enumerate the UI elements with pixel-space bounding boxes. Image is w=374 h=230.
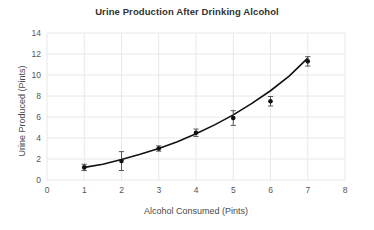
x-tick-label: 4 [181, 186, 211, 195]
plot-area [47, 33, 345, 180]
plot-svg [47, 33, 345, 180]
x-tick-label: 3 [144, 186, 174, 195]
y-tick-label: 4 [1, 134, 41, 143]
x-axis-label: Alcohol Consumed (Pints) [47, 206, 345, 216]
grid-lines [47, 33, 345, 180]
data-point-marker [231, 116, 236, 121]
y-tick-label: 12 [1, 50, 41, 59]
chart-container: Urine Production After Drinking Alcohol … [0, 0, 374, 230]
data-point-marker [194, 130, 199, 135]
x-tick-label: 5 [218, 186, 248, 195]
y-tick-label: 14 [1, 29, 41, 38]
data-point-marker [156, 146, 161, 151]
y-tick-label: 0 [1, 176, 41, 185]
data-point-marker [119, 159, 124, 164]
y-tick-label: 6 [1, 113, 41, 122]
x-tick-label: 0 [32, 186, 62, 195]
y-tick-label: 10 [1, 71, 41, 80]
x-tick-label: 2 [107, 186, 137, 195]
y-tick-label: 2 [1, 155, 41, 164]
y-tick-label: 8 [1, 92, 41, 101]
x-tick-label: 7 [293, 186, 323, 195]
data-point-marker [268, 99, 273, 104]
x-tick-label: 8 [330, 186, 360, 195]
x-tick-label: 1 [69, 186, 99, 195]
chart-title: Urine Production After Drinking Alcohol [0, 6, 374, 17]
data-point-marker [82, 165, 87, 170]
x-tick-label: 6 [256, 186, 286, 195]
data-point-marker [305, 59, 310, 64]
